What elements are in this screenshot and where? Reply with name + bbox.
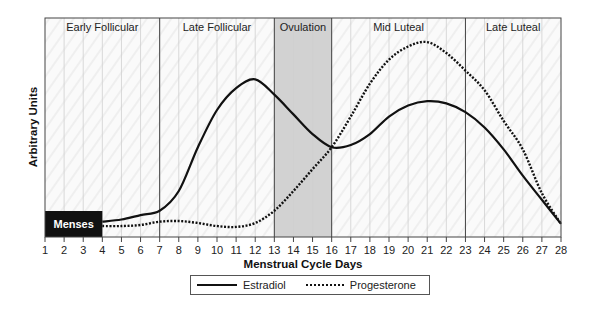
x-tick-label: 9 <box>195 244 201 256</box>
x-tick-label: 7 <box>157 244 163 256</box>
x-tick-label: 12 <box>249 244 261 256</box>
x-tick-label: 27 <box>536 244 548 256</box>
x-tick-label: 2 <box>61 244 67 256</box>
legend-swatch-dotted <box>306 284 344 286</box>
x-tick-label: 1 <box>42 244 48 256</box>
x-tick-label: 4 <box>99 244 105 256</box>
x-tick-label: 15 <box>306 244 318 256</box>
x-axis-ticks: 1234567891011121314151617181920212223242… <box>42 237 567 256</box>
x-axis-title: Menstrual Cycle Days <box>244 258 363 270</box>
phase-label: Late Luteal <box>486 21 540 33</box>
x-tick-label: 21 <box>421 244 433 256</box>
x-tick-label: 25 <box>498 244 510 256</box>
x-tick-label: 17 <box>345 244 357 256</box>
x-tick-label: 11 <box>230 244 241 256</box>
phase-label: Ovulation <box>280 21 326 33</box>
phase-label: Late Follicular <box>183 21 252 33</box>
legend-item-progesterone: Progesterone <box>286 279 416 291</box>
x-tick-label: 18 <box>364 244 376 256</box>
x-tick-label: 26 <box>517 244 529 256</box>
x-tick-label: 24 <box>478 244 490 256</box>
x-tick-label: 6 <box>137 244 143 256</box>
phase-label: Mid Luteal <box>373 21 424 33</box>
x-tick-label: 16 <box>326 244 338 256</box>
y-axis-title: Arbitrary Units <box>27 87 39 168</box>
chart: Early FollicularLate FollicularOvulation… <box>0 0 591 275</box>
x-tick-label: 5 <box>118 244 124 256</box>
legend: Estradiol Progesterone <box>190 275 430 295</box>
legend-item-estradiol: Estradiol <box>191 279 286 291</box>
x-tick-label: 22 <box>440 244 452 256</box>
x-tick-label: 3 <box>80 244 86 256</box>
x-tick-label: 10 <box>211 244 223 256</box>
x-tick-label: 20 <box>402 244 414 256</box>
x-tick-label: 8 <box>176 244 182 256</box>
menses-annotation: Menses <box>45 211 102 237</box>
menses-label: Menses <box>53 218 93 230</box>
legend-swatch-solid <box>197 284 237 286</box>
legend-label-progesterone: Progesterone <box>350 279 416 291</box>
x-tick-label: 23 <box>459 244 471 256</box>
x-tick-label: 13 <box>268 244 280 256</box>
x-tick-label: 28 <box>555 244 567 256</box>
phase-label: Early Follicular <box>66 21 138 33</box>
legend-label-estradiol: Estradiol <box>243 279 286 291</box>
x-tick-label: 14 <box>287 244 299 256</box>
x-tick-label: 19 <box>383 244 395 256</box>
